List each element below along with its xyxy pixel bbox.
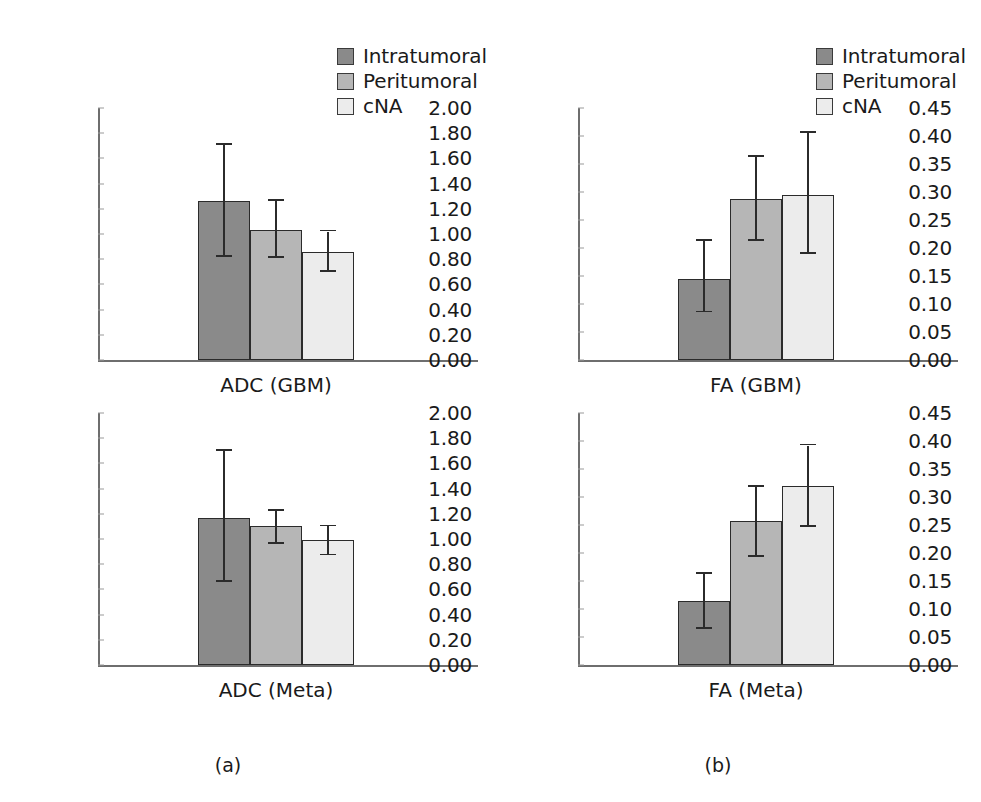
y-tick-label-fa-gbm-7: 0.10 <box>908 294 952 314</box>
error-bar-cap-upper-fa-gbm-2 <box>800 131 816 133</box>
y-tick-label-adc-gbm-2: 1.60 <box>428 148 472 168</box>
y-tick-label-adc-gbm-8: 0.40 <box>428 300 472 320</box>
bar-group-fa-meta <box>678 413 834 665</box>
legend-label-a-0: Intratumoral <box>363 46 487 66</box>
chart-panel-fa-gbm: 0.450.400.350.300.250.200.150.100.050.00… <box>506 108 961 413</box>
y-tick-label-adc-meta-3: 1.40 <box>428 479 472 499</box>
y-tick-mark-adc-meta-3 <box>98 488 104 489</box>
y-tick-label-adc-meta-2: 1.60 <box>428 453 472 473</box>
error-bar-line-adc-gbm-2 <box>327 232 329 272</box>
y-tick-mark-fa-gbm-0 <box>578 108 584 109</box>
y-tick-mark-adc-gbm-0 <box>98 108 104 109</box>
bar-adc-meta-cna <box>302 540 354 665</box>
legend-item-b-0: Intratumoral <box>816 44 966 68</box>
plot-area-fa-meta: 0.450.400.350.300.250.200.150.100.050.00 <box>506 413 958 665</box>
error-bar-line-adc-gbm-1 <box>275 201 277 258</box>
error-bar-cap-upper-fa-gbm-0 <box>696 239 712 241</box>
x-axis-line-adc-gbm <box>98 360 478 362</box>
y-tick-mark-fa-meta-1 <box>578 441 584 442</box>
y-tick-label-adc-meta-10: 0.00 <box>428 655 472 675</box>
figure-caption-a: (a) <box>198 755 258 775</box>
y-tick-mark-adc-meta-1 <box>98 438 104 439</box>
y-tick-label-fa-gbm-3: 0.30 <box>908 182 952 202</box>
y-tick-label-fa-meta-0: 0.45 <box>908 403 952 423</box>
x-axis-line-adc-meta <box>98 665 478 667</box>
y-tick-label-fa-meta-3: 0.30 <box>908 487 952 507</box>
y-tick-label-fa-meta-8: 0.05 <box>908 627 952 647</box>
y-tick-label-fa-gbm-5: 0.20 <box>908 238 952 258</box>
y-tick-mark-fa-gbm-7 <box>578 304 584 305</box>
legend-item-a-0: Intratumoral <box>337 44 487 68</box>
y-tick-mark-fa-gbm-1 <box>578 136 584 137</box>
y-tick-label-adc-meta-6: 0.80 <box>428 554 472 574</box>
y-tick-mark-fa-gbm-2 <box>578 164 584 165</box>
y-tick-label-adc-gbm-4: 1.20 <box>428 199 472 219</box>
y-tick-label-adc-gbm-10: 0.00 <box>428 350 472 370</box>
legend-label-b-1: Peritumoral <box>842 71 957 91</box>
error-bar-cap-lower-fa-meta-0 <box>696 627 712 629</box>
y-tick-mark-fa-meta-3 <box>578 497 584 498</box>
error-bar-line-fa-meta-0 <box>703 574 705 629</box>
y-tick-label-adc-gbm-1: 1.80 <box>428 123 472 143</box>
y-tick-label-adc-meta-9: 0.20 <box>428 630 472 650</box>
x-axis-label-fa-gbm: FA (GBM) <box>598 374 914 396</box>
y-tick-label-fa-gbm-4: 0.25 <box>908 210 952 230</box>
bar-adc-meta-peritumoral <box>250 526 302 665</box>
error-bar-cap-lower-fa-meta-1 <box>748 555 764 557</box>
legend-swatch-peritumoral <box>816 73 833 90</box>
error-bar-line-adc-meta-0 <box>223 451 225 582</box>
y-tick-label-fa-gbm-6: 0.15 <box>908 266 952 286</box>
error-bar-cap-lower-adc-meta-0 <box>216 580 232 582</box>
y-tick-mark-adc-gbm-5 <box>98 234 104 235</box>
y-tick-mark-adc-gbm-2 <box>98 158 104 159</box>
y-tick-mark-adc-gbm-10 <box>98 360 104 361</box>
y-tick-label-adc-meta-5: 1.00 <box>428 529 472 549</box>
chart-panel-adc-gbm: 2.001.801.601.401.201.000.800.600.400.20… <box>26 108 481 413</box>
y-tick-mark-fa-meta-4 <box>578 525 584 526</box>
y-tick-mark-adc-gbm-8 <box>98 309 104 310</box>
figure-root: IntratumoralPeritumoralcNA IntratumoralP… <box>0 0 981 802</box>
error-bar-cap-lower-adc-gbm-0 <box>216 255 232 257</box>
error-bar-cap-lower-fa-gbm-1 <box>748 239 764 241</box>
x-axis-label-adc-gbm: ADC (GBM) <box>118 374 434 396</box>
x-axis-line-fa-meta <box>578 665 958 667</box>
y-tick-mark-adc-gbm-1 <box>98 133 104 134</box>
y-tick-mark-fa-gbm-4 <box>578 220 584 221</box>
error-bar-cap-lower-adc-gbm-1 <box>268 256 284 258</box>
y-tick-label-fa-gbm-0: 0.45 <box>908 98 952 118</box>
y-tick-label-fa-meta-6: 0.15 <box>908 571 952 591</box>
y-tick-mark-adc-meta-8 <box>98 614 104 615</box>
figure-caption-b: (b) <box>688 755 748 775</box>
bar-group-fa-gbm <box>678 108 834 360</box>
y-tick-mark-fa-meta-6 <box>578 581 584 582</box>
y-tick-mark-fa-gbm-8 <box>578 332 584 333</box>
y-tick-mark-adc-gbm-6 <box>98 259 104 260</box>
y-tick-mark-fa-meta-8 <box>578 637 584 638</box>
y-tick-label-fa-meta-7: 0.10 <box>908 599 952 619</box>
x-axis-label-adc-meta: ADC (Meta) <box>118 679 434 701</box>
y-tick-label-adc-gbm-0: 2.00 <box>428 98 472 118</box>
y-tick-mark-adc-meta-5 <box>98 539 104 540</box>
y-tick-label-fa-meta-4: 0.25 <box>908 515 952 535</box>
legend-item-b-1: Peritumoral <box>816 69 966 93</box>
error-bar-cap-upper-adc-meta-2 <box>320 525 336 527</box>
y-tick-label-adc-gbm-3: 1.40 <box>428 174 472 194</box>
legend-swatch-intratumoral <box>337 48 354 65</box>
plot-area-adc-meta: 2.001.801.601.401.201.000.800.600.400.20… <box>26 413 478 665</box>
y-tick-label-fa-gbm-8: 0.05 <box>908 322 952 342</box>
error-bar-cap-upper-adc-meta-0 <box>216 449 232 451</box>
error-bar-cap-upper-fa-meta-2 <box>800 444 816 446</box>
y-tick-label-adc-meta-7: 0.60 <box>428 579 472 599</box>
y-tick-label-fa-meta-1: 0.40 <box>908 431 952 451</box>
x-axis-line-fa-gbm <box>578 360 958 362</box>
error-bar-line-fa-gbm-1 <box>755 157 757 241</box>
y-axis-line-fa-meta <box>578 413 580 665</box>
y-tick-mark-adc-meta-4 <box>98 513 104 514</box>
error-bar-cap-upper-adc-gbm-1 <box>268 199 284 201</box>
y-tick-mark-adc-gbm-9 <box>98 334 104 335</box>
y-tick-label-adc-meta-8: 0.40 <box>428 605 472 625</box>
y-tick-mark-adc-meta-9 <box>98 639 104 640</box>
y-tick-label-fa-gbm-1: 0.40 <box>908 126 952 146</box>
chart-panel-fa-meta: 0.450.400.350.300.250.200.150.100.050.00… <box>506 413 961 718</box>
error-bar-cap-upper-fa-gbm-1 <box>748 155 764 157</box>
